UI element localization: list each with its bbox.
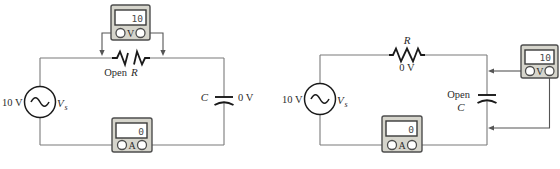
source-name-subscript: s [345,100,348,109]
probe-wire-lower [494,77,550,128]
ammeter-terminal-right [408,141,417,150]
resistor-zigzag-right [134,52,150,65]
capacitor-reading-label: 0 V [238,92,254,103]
voltmeter-unit-label: V [536,66,544,77]
voltmeter-terminal-left [116,29,125,38]
ammeter-terminal-left [118,141,127,150]
fault-word-label: Open [447,89,470,100]
voltmeter-terminal-right [136,29,145,38]
resistor-symbol [389,49,425,62]
left-circuit-diagram: Open R 10 V V s C 0 V 10 V 0 [0,0,280,169]
capacitor-label: C [201,91,209,103]
down-arrow-icon [99,50,104,56]
voltmeter-terminal-left [526,67,535,76]
resistor-zigzag [389,49,425,62]
source-voltage-label: 10 V [2,97,23,108]
fault-component-label: C [457,101,465,113]
right-circuit-diagram: R 0 V 10 V V s Open C 10 [280,0,560,169]
down-arrow-icon [160,50,165,56]
resistor-label: R [403,34,411,46]
sine-wave-icon [311,95,329,104]
voltmeter-unit-label: V [127,28,135,39]
ammeter: 0 A [382,116,422,152]
voltmeter-reading: 10 [540,52,552,63]
ammeter-unit-label: A [128,140,136,151]
ammeter-unit-label: A [398,140,406,151]
ac-source-symbol [25,87,56,118]
probe-wire-right [150,33,163,50]
ammeter-terminal-left [388,141,397,150]
voltmeter-reading: 10 [132,13,144,24]
ammeter-reading: 0 [138,126,144,137]
source-voltage-label: 10 V [282,94,303,105]
figure-canvas: Open R 10 V V s C 0 V 10 V 0 [0,0,560,169]
fault-word-label: Open [104,67,127,78]
voltmeter: 10 V [111,5,150,40]
left-arrow-icon [488,68,494,73]
left-arrow-icon [488,125,494,130]
open-resistor-symbol [112,52,150,65]
source-name-subscript: s [65,103,68,112]
voltmeter: 10 V [521,45,558,78]
sine-wave-icon [31,98,49,107]
resistor-zigzag-left [112,52,128,65]
voltmeter-terminal-right [545,67,554,76]
resistor-reading-label: 0 V [399,62,415,73]
fault-component-label: R [130,66,138,78]
ac-source-symbol [305,84,336,115]
ammeter-terminal-right [138,141,147,150]
ammeter-reading: 0 [408,124,414,135]
ammeter: 0 A [112,118,152,152]
